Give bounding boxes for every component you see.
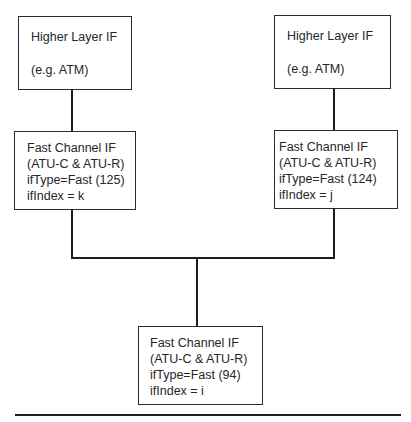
fast-right-line-2: (ATU-C & ATU-R)	[279, 155, 376, 171]
connector-horizontal	[71, 257, 335, 259]
connector-right-down	[333, 208, 335, 259]
fast-bottom-line-2: (ATU-C & ATU-R)	[150, 351, 247, 367]
fast-left-line-2: (ATU-C & ATU-R)	[27, 156, 124, 172]
connector-left-down	[71, 209, 73, 259]
higher-layer-if-right-title: Higher Layer IF	[287, 28, 373, 44]
fast-right-line-4: ifIndex = j	[279, 187, 333, 203]
connector-left-top	[71, 89, 73, 131]
connector-center-down	[196, 257, 198, 327]
fast-right-line-1: Fast Channel IF	[279, 139, 368, 155]
fast-bottom-line-1: Fast Channel IF	[150, 335, 239, 351]
fast-bottom-line-3: ifType=Fast (94)	[150, 367, 241, 383]
fast-channel-if-bottom-box: Fast Channel IF (ATU-C & ATU-R) ifType=F…	[138, 326, 263, 405]
fast-bottom-line-4: ifIndex = i	[150, 383, 204, 399]
fast-right-line-3: ifType=Fast (124)	[279, 171, 377, 187]
higher-layer-if-right-box: Higher Layer IF (e.g. ATM)	[274, 15, 391, 89]
higher-layer-if-right-subtitle: (e.g. ATM)	[287, 61, 344, 77]
connector-right-top	[333, 88, 335, 130]
bottom-rule	[15, 414, 401, 416]
fast-left-line-4: ifIndex = k	[27, 188, 84, 204]
fast-channel-if-right-box: Fast Channel IF (ATU-C & ATU-R) ifType=F…	[274, 130, 398, 209]
higher-layer-if-left-subtitle: (e.g. ATM)	[31, 62, 88, 78]
fast-left-line-1: Fast Channel IF	[27, 140, 116, 156]
higher-layer-if-left-title: Higher Layer IF	[31, 29, 117, 45]
fast-channel-if-left-box: Fast Channel IF (ATU-C & ATU-R) ifType=F…	[14, 131, 136, 210]
fast-left-line-3: ifType=Fast (125)	[27, 172, 125, 188]
higher-layer-if-left-box: Higher Layer IF (e.g. ATM)	[18, 16, 132, 90]
